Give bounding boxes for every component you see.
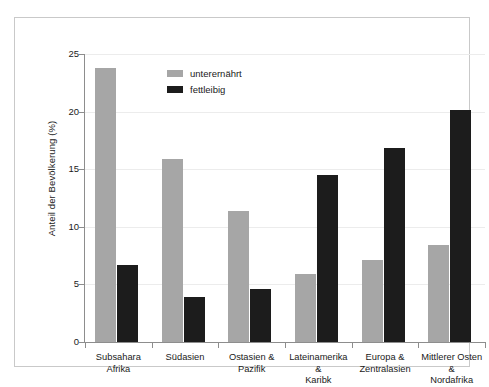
y-axis-tick-label: 10: [37, 222, 79, 232]
bar-fettleibig: [250, 289, 271, 342]
x-axis-category-label: Südasien: [152, 352, 219, 364]
legend-swatch-icon: [167, 70, 183, 77]
y-axis-tick-label: 5: [37, 279, 79, 289]
x-axis-tick: [485, 342, 486, 348]
y-axis-tick: [79, 54, 85, 55]
x-axis-tick: [152, 342, 153, 348]
legend-label: fettleibig: [190, 84, 225, 95]
x-axis-tick: [418, 342, 419, 348]
x-axis-tick: [352, 342, 353, 348]
x-axis-category-label: Mittlerer Osten & Nordafrika: [418, 352, 485, 387]
legend-item-fettleibig: fettleibig: [167, 82, 242, 96]
bar-fettleibig: [317, 175, 338, 342]
plot-area: [85, 54, 485, 342]
legend-item-unterernaehrt: unterernährt: [167, 66, 242, 80]
gridline: [85, 112, 485, 113]
bar-unterernaehrt: [95, 68, 116, 342]
gridline: [85, 284, 485, 285]
gridline: [85, 169, 485, 170]
x-axis-tick: [218, 342, 219, 348]
legend-swatch-icon: [167, 86, 183, 93]
gridline: [85, 227, 485, 228]
figure-frame: Anteil der Bevölkerung (%) unterernährt …: [14, 17, 470, 367]
bar-unterernaehrt: [428, 245, 449, 342]
y-axis-tick: [79, 284, 85, 285]
chart-legend: unterernährt fettleibig: [167, 66, 242, 98]
x-axis-category-label: Subsahara Afrika: [85, 352, 152, 375]
gridline: [85, 54, 485, 55]
bar-unterernaehrt: [362, 260, 383, 342]
y-axis-tick-label: 25: [37, 49, 79, 59]
bar-fettleibig: [450, 110, 471, 342]
y-axis-tick-label: 0: [37, 337, 79, 347]
y-axis-tick-label: 20: [37, 107, 79, 117]
x-axis-tick: [85, 342, 86, 348]
x-axis-category-label: Ostasien & Pazifik: [218, 352, 285, 375]
y-axis-tick: [79, 227, 85, 228]
bar-fettleibig: [384, 148, 405, 342]
bar-fettleibig: [117, 265, 138, 342]
legend-label: unterernährt: [190, 68, 242, 79]
bar-unterernaehrt: [228, 211, 249, 342]
y-axis-tick: [79, 169, 85, 170]
y-axis-line: [84, 54, 85, 343]
x-axis-category-label: Lateinamerika & Karibk: [285, 352, 352, 387]
bar-unterernaehrt: [162, 159, 183, 342]
y-axis-tick: [79, 112, 85, 113]
x-axis-tick: [285, 342, 286, 348]
x-axis-category-label: Europa & Zentralasien: [352, 352, 419, 375]
bar-fettleibig: [184, 297, 205, 342]
y-axis-tick-label: 15: [37, 164, 79, 174]
bar-unterernaehrt: [295, 274, 316, 342]
